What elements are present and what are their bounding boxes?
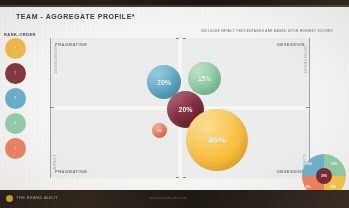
donut-label-yellow: 45%: [330, 185, 336, 189]
legend-item-2[interactable]: 2: [5, 63, 26, 84]
donut-label-green: 15%: [331, 162, 337, 166]
top-bar-highlight: [0, 5, 349, 7]
axis-label-investment-left: INVESTMENT: [53, 46, 57, 74]
quadrant-label-top-right: OBSESSION: [277, 42, 305, 47]
legend-item-4-label: 4: [15, 122, 17, 125]
legend-item-5[interactable]: 5: [5, 138, 26, 159]
donut-label-orange: 0%: [306, 185, 310, 189]
legend-item-2-label: 2: [15, 72, 17, 75]
chart-annotation: INCLUDES IMPACT PERCENTAGES ARE BASED UP…: [201, 29, 333, 33]
donut-center-hub: 20%: [316, 168, 332, 184]
axis-label-impact-left: IMPACT: [53, 154, 57, 170]
legend-item-1[interactable]: 1: [5, 38, 26, 59]
tick-mid-right: [306, 107, 310, 108]
bubble-orange[interactable]: 0%: [152, 123, 167, 138]
legend-heading: RANK-ORDER: [4, 32, 36, 37]
bubble-maroon-label: 20%: [178, 106, 192, 113]
footer-center-label: www.brandaudit.com: [150, 196, 187, 200]
bubble-yellow[interactable]: 45%: [186, 109, 248, 171]
donut-label-blue: 20%: [306, 162, 312, 166]
quadrant-label-top-left: PRAGMATISM: [55, 42, 87, 47]
donut-center-label: 20%: [321, 174, 327, 178]
bubble-green-label: 15%: [198, 75, 211, 82]
quadrant-bottom-left: [50, 110, 178, 178]
bubble-blue-label: 20%: [157, 79, 171, 86]
axis-left-border: [50, 38, 51, 178]
legend-item-1-label: 1: [15, 47, 17, 50]
slide-canvas: TEAM - AGGREGATE PROFILE* RANK-ORDER 1 2…: [0, 0, 349, 208]
tick-bottom-right: [183, 177, 186, 178]
bubble-yellow-label: 45%: [208, 135, 226, 145]
tick-mid-left: [50, 107, 54, 108]
quadrant-label-bottom-left: PRAGMATISM: [55, 169, 87, 174]
legend-item-5-label: 5: [15, 147, 17, 150]
legend-item-3[interactable]: 3: [5, 88, 26, 109]
legend-item-4[interactable]: 4: [5, 113, 26, 134]
tick-top-left: [176, 38, 179, 39]
bubble-orange-label: 0%: [157, 129, 162, 133]
bubble-green[interactable]: 15%: [188, 62, 221, 95]
footer-brand-label: THE BRAND AUDIT: [16, 195, 58, 200]
tick-bottom-left: [176, 177, 179, 178]
rank-order-legend: 1 2 3 4 5: [5, 38, 31, 163]
axis-label-investment-right: INVESTMENT: [303, 46, 307, 74]
tick-top-right: [183, 38, 186, 39]
page-title: TEAM - AGGREGATE PROFILE*: [16, 13, 135, 20]
bubble-matrix-chart: PRAGMATISM OBSESSION PRAGMATISM OBSESSIO…: [50, 38, 310, 178]
legend-item-3-label: 3: [15, 97, 17, 100]
brand-logo-icon: [6, 195, 13, 202]
quadrant-label-bottom-right: OBSESSION: [277, 169, 305, 174]
footer-bar: THE BRAND AUDIT www.brandaudit.com: [0, 190, 349, 208]
